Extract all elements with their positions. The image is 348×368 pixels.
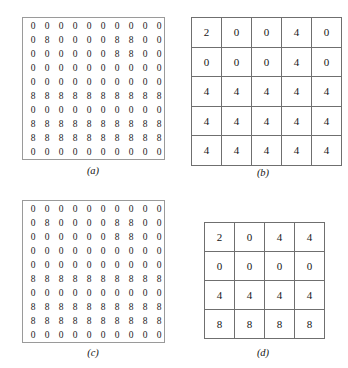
matrix-cell: 4 — [295, 281, 325, 310]
matrix-cell: 8 — [124, 34, 138, 48]
matrix-cell: 4 — [265, 223, 295, 252]
matrix-cell: 0 — [96, 62, 110, 76]
matrix-cell: 4 — [282, 77, 312, 107]
matrix-cell: 0 — [68, 76, 82, 90]
matrix-cell: 0 — [252, 47, 282, 77]
matrix-cell: 0 — [54, 329, 68, 343]
matrix-cell: 8 — [124, 48, 138, 62]
matrix-cell: 8 — [138, 90, 152, 104]
matrix-cell: 0 — [124, 62, 138, 76]
matrix-row: 0000000000 — [26, 329, 166, 343]
matrix-cell: 8 — [110, 301, 124, 315]
matrix-cell: 4 — [192, 77, 222, 107]
matrix-cell: 0 — [252, 18, 282, 48]
matrix-cell: 0 — [26, 104, 40, 118]
matrix-cell: 0 — [110, 62, 124, 76]
matrix-cell: 0 — [138, 259, 152, 273]
matrix-cell: 0 — [26, 76, 40, 90]
matrix-row: 44444 — [192, 106, 342, 136]
matrix-cell: 8 — [110, 132, 124, 146]
matrix-cell: 0 — [54, 217, 68, 231]
matrix-cell: 8 — [96, 118, 110, 132]
matrix-cell: 0 — [96, 245, 110, 259]
matrix-cell: 0 — [40, 329, 54, 343]
matrix-cell: 8 — [124, 217, 138, 231]
matrix-cell: 4 — [192, 136, 222, 166]
matrix-cell: 8 — [68, 90, 82, 104]
matrix-row: 44444 — [192, 77, 342, 107]
matrix-cell: 8 — [40, 34, 54, 48]
matrix-row: 0800008800 — [26, 34, 166, 48]
matrix-row: 2044 — [205, 223, 325, 252]
matrix-body-b: 2004000040444444444444444 — [192, 18, 342, 166]
matrix-cell: 0 — [138, 62, 152, 76]
matrix-cell: 0 — [40, 245, 54, 259]
matrix-cell: 0 — [124, 203, 138, 217]
matrix-cell: 0 — [82, 20, 96, 34]
matrix-row: 20040 — [192, 18, 342, 48]
matrix-cell: 4 — [222, 136, 252, 166]
matrix-cell: 0 — [68, 329, 82, 343]
matrix-cell: 0 — [68, 62, 82, 76]
matrix-cell: 8 — [54, 132, 68, 146]
matrix-cell: 4 — [312, 77, 342, 107]
matrix-body-a: 0000000000080000880000000088000000000000… — [26, 20, 166, 160]
matrix-cell: 0 — [152, 48, 166, 62]
matrix-cell: 8 — [54, 118, 68, 132]
matrix-table-a: 0000000000080000880000000088000000000000… — [26, 20, 166, 160]
matrix-cell: 0 — [295, 252, 325, 281]
matrix-cell: 8 — [138, 132, 152, 146]
matrix-row: 8888888888 — [26, 132, 166, 146]
matrix-cell: 8 — [124, 273, 138, 287]
matrix-panel-b: 2004000040444444444444444 — [191, 17, 342, 166]
matrix-cell: 0 — [54, 34, 68, 48]
matrix-cell: 8 — [152, 118, 166, 132]
matrix-cell: 0 — [138, 104, 152, 118]
matrix-cell: 0 — [40, 259, 54, 273]
matrix-cell: 0 — [110, 245, 124, 259]
matrix-cell: 0 — [124, 287, 138, 301]
matrix-cell: 0 — [68, 245, 82, 259]
matrix-cell: 0 — [152, 287, 166, 301]
matrix-cell: 0 — [26, 231, 40, 245]
matrix-cell: 4 — [252, 136, 282, 166]
matrix-panel-c: 0000000000080000880000000088000000000000… — [22, 200, 165, 343]
matrix-cell: 0 — [124, 104, 138, 118]
matrix-cell: 0 — [138, 20, 152, 34]
matrix-cell: 0 — [138, 329, 152, 343]
matrix-cell: 8 — [82, 132, 96, 146]
matrix-cell: 8 — [96, 315, 110, 329]
matrix-cell: 4 — [282, 18, 312, 48]
matrix-cell: 8 — [152, 315, 166, 329]
matrix-cell: 0 — [54, 20, 68, 34]
matrix-cell: 8 — [40, 90, 54, 104]
matrix-cell: 0 — [192, 47, 222, 77]
matrix-cell: 8 — [138, 118, 152, 132]
matrix-cell: 0 — [152, 245, 166, 259]
matrix-cell: 0 — [96, 231, 110, 245]
matrix-cell: 0 — [312, 47, 342, 77]
matrix-cell: 0 — [312, 18, 342, 48]
matrix-cell: 8 — [96, 301, 110, 315]
matrix-cell: 8 — [82, 90, 96, 104]
matrix-cell: 0 — [138, 34, 152, 48]
matrix-cell: 8 — [265, 310, 295, 339]
matrix-cell: 0 — [235, 252, 265, 281]
matrix-cell: 0 — [138, 217, 152, 231]
matrix-cell: 0 — [26, 62, 40, 76]
matrix-cell: 4 — [282, 106, 312, 136]
matrix-cell: 0 — [96, 217, 110, 231]
matrix-row: 0000008800 — [26, 48, 166, 62]
matrix-row: 8888 — [205, 310, 325, 339]
matrix-cell: 0 — [26, 203, 40, 217]
matrix-cell: 0 — [68, 259, 82, 273]
matrix-cell: 0 — [26, 259, 40, 273]
matrix-cell: 8 — [110, 48, 124, 62]
matrix-row: 8888888888 — [26, 118, 166, 132]
matrix-cell: 0 — [152, 76, 166, 90]
matrix-cell: 8 — [152, 301, 166, 315]
matrix-cell: 0 — [54, 62, 68, 76]
matrix-cell: 8 — [26, 132, 40, 146]
matrix-cell: 0 — [96, 20, 110, 34]
matrix-cell: 8 — [110, 34, 124, 48]
